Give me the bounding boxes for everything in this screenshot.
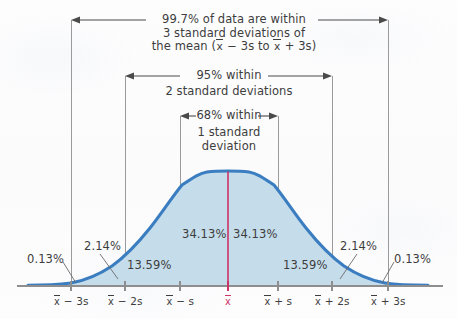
tick-suffix: − s <box>173 295 194 307</box>
tick-suffix: + s <box>271 295 292 307</box>
bracket-95-label: 95% within <box>179 69 279 83</box>
bracket-68-sublabel: 1 standard deviation <box>189 126 269 153</box>
tick-suffix: − 3s <box>60 295 88 307</box>
bracket-68-label: 68% within <box>194 109 264 123</box>
normal-distribution-figure: 99.7% of data are within 3 standard devi… <box>0 0 457 319</box>
bracket-997-line1: 99.7% of data are within <box>148 13 320 27</box>
bracket-95-left-arrowhead <box>125 73 134 80</box>
mean-symbol: x <box>166 295 173 307</box>
pct-right-tail-outer: 0.13% <box>394 253 431 267</box>
pct-right-2to3: 2.14% <box>340 240 377 254</box>
bracket-997-label: 99.7% of data are within 3 standard devi… <box>148 13 320 54</box>
bracket-997-left-arrowhead <box>71 17 80 24</box>
axis-tick-label-plus-2s: x + 2s <box>302 295 362 308</box>
bracket-997-line3: the mean (x − 3s to x + 3s) <box>148 40 320 54</box>
bracket-95-line2: 2 standard deviations <box>162 85 296 99</box>
pct-right-0to1: 34.13% <box>233 228 277 242</box>
bracket-68-line2: 1 standard <box>189 126 269 140</box>
bracket-997-mean-symbol-hi: x <box>273 39 280 53</box>
bracket-68-right-arrowhead <box>269 113 278 120</box>
mean-symbol: x <box>225 295 232 307</box>
bracket-68-line3: deviation <box>189 140 269 154</box>
pct-left-tail-outer: 0.13% <box>27 253 64 267</box>
pct-right-1to2: 13.59% <box>283 259 327 273</box>
bracket-997-line2: 3 standard deviations of <box>148 27 320 41</box>
leader-left-013 <box>63 262 76 283</box>
tick-suffix: − 2s <box>114 295 142 307</box>
axis-tick-label-plus-3s: x + 3s <box>358 295 418 308</box>
bracket-95-right-arrowhead <box>323 73 332 80</box>
bracket-997-line3-prefix: the mean ( <box>152 39 216 53</box>
axis-tick-label-minus-3s: x − 3s <box>41 295 101 308</box>
pct-left-0to1: 34.13% <box>182 228 226 242</box>
bracket-95-sublabel: 2 standard deviations <box>162 85 296 99</box>
pct-left-2to3: 2.14% <box>84 240 121 254</box>
tick-suffix: + 3s <box>377 295 405 307</box>
pct-left-1to2: 13.59% <box>127 259 171 273</box>
bracket-68-line1: 68% within <box>194 109 264 123</box>
bracket-997-line3-hi-rest: + 3s) <box>281 39 316 53</box>
bracket-95-line1: 95% within <box>179 69 279 83</box>
bracket-997-right-arrowhead <box>379 17 388 24</box>
bracket-997-line3-lo-rest: − 3s to <box>223 39 273 53</box>
axis-tick-label-minus-2s: x − 2s <box>95 295 155 308</box>
mean-symbol: x <box>264 295 271 307</box>
bracket-68-left-arrowhead <box>180 113 189 120</box>
tick-suffix: + 2s <box>321 295 349 307</box>
axis-tick-label-plus-1s: x + s <box>248 295 308 308</box>
